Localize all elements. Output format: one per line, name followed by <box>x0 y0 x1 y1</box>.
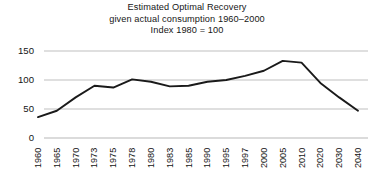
x-tick-label-2020: 2020 <box>316 148 325 168</box>
x-tick-label-2000: 2000 <box>260 148 269 168</box>
x-tick-label-1980: 1980 <box>147 148 156 168</box>
x-tick-label-1983: 1983 <box>166 148 175 168</box>
y-tick-label-100: 100 <box>4 75 34 85</box>
x-tick-label-2040: 2040 <box>354 148 363 168</box>
x-tick-label-1990: 1990 <box>203 148 212 168</box>
x-tick-label-1973: 1973 <box>90 148 99 168</box>
gridlines <box>44 51 368 138</box>
y-tick-label-50: 50 <box>4 104 34 114</box>
x-tick-label-2010: 2010 <box>298 148 307 168</box>
chart-figure: Estimated Optimal Recovery given actual … <box>0 0 374 175</box>
plot-area: 050100150 196019651970197319751978198019… <box>0 0 374 175</box>
x-tick-label-1970: 1970 <box>72 148 81 168</box>
y-tick-label-150: 150 <box>4 46 34 56</box>
x-tick-label-1997: 1997 <box>241 148 250 168</box>
x-tick-label-1965: 1965 <box>53 148 62 168</box>
x-tick-label-1985: 1985 <box>185 148 194 168</box>
x-tick-label-2005: 2005 <box>279 148 288 168</box>
x-tick-label-1978: 1978 <box>128 148 137 168</box>
x-tick-label-1960: 1960 <box>34 148 43 168</box>
x-tick-label-2030: 2030 <box>335 148 344 168</box>
x-tick-label-1975: 1975 <box>109 148 118 168</box>
y-tick-label-0: 0 <box>4 133 34 143</box>
x-tick-label-1995: 1995 <box>222 148 231 168</box>
